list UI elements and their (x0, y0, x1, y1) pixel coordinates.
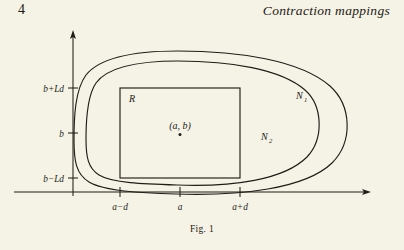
x-tick-label-middle: a (178, 202, 183, 212)
x-axis-tick-labels: a−d a a+d (112, 202, 248, 212)
y-tick-label-upper: b+Ld (43, 84, 64, 94)
y-tick-label-lower: b−Ld (43, 174, 64, 184)
inner-curve-label-text: N (260, 131, 269, 142)
inner-curve-label-subscript: 2 (269, 137, 273, 144)
inner-curve-label-n2: N 2 (260, 131, 273, 144)
figure-caption: Fig. 1 (0, 224, 404, 234)
figure-1: b+Ld b b−Ld a−d a a+d R (0, 24, 404, 224)
rectangle-label-r: R (128, 93, 135, 104)
center-point-dot (179, 133, 182, 136)
outer-curve-label-n1: N 1 (295, 90, 307, 103)
inner-curve-n2 (86, 61, 319, 185)
outer-curve-n1 (74, 51, 347, 194)
figure-canvas: b+Ld b b−Ld a−d a a+d R (0, 24, 404, 224)
x-tick-label-right: a+d (232, 202, 248, 212)
y-axis-tick-labels: b+Ld b b−Ld (43, 84, 64, 184)
x-tick-label-left: a−d (112, 202, 128, 212)
page: 4 Contraction mappings b+Ld b (0, 0, 404, 250)
outer-curve-label-text: N (295, 90, 304, 101)
running-head-title: Contraction mappings (263, 3, 390, 19)
center-point-label: (a, b) (169, 120, 191, 132)
page-number: 4 (18, 2, 25, 18)
running-head: 4 Contraction mappings (0, 0, 404, 26)
y-tick-label-middle: b (59, 129, 64, 139)
outer-curve-label-subscript: 1 (304, 96, 307, 103)
